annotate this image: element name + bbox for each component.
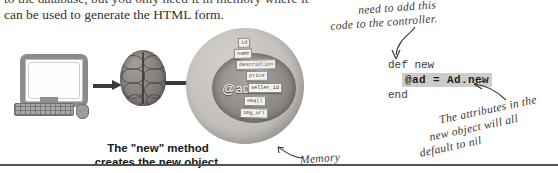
mouse-icon (76, 104, 89, 119)
attribute-tag: price (246, 71, 268, 81)
attribute-tag: seller_id (248, 83, 282, 93)
arrow-shaft (93, 84, 113, 88)
brain-fold (146, 94, 162, 106)
annotation-top: need to add this code to the controller. (322, 0, 532, 26)
body-line-2: can be used to generate the HTML form. (4, 7, 304, 23)
arrow-right-icon (93, 82, 121, 89)
annotation-bottom: The attributes in the new object will al… (424, 100, 558, 144)
attribute-tag: description (236, 59, 276, 70)
caption-line-2: creates the new object. (58, 156, 258, 170)
attribute-tag: email (244, 96, 266, 106)
attribute-tag: id (238, 37, 251, 48)
body-line-1: to the database, but you only need it in… (4, 0, 304, 7)
body-paragraph: to the database, but you only need it in… (4, 0, 304, 23)
keyboard-icon (14, 103, 74, 116)
caption-line-1: The "new" method (58, 142, 258, 156)
brain-fold (127, 94, 143, 106)
attribute-tag: img_url (240, 108, 268, 118)
desktop-computer-icon (12, 54, 90, 116)
attribute-tag: name (234, 48, 253, 59)
code-line-def: def new (388, 58, 492, 73)
attribute-tag-list: id name description price seller_id emai… (230, 38, 310, 134)
brain-icon (120, 50, 166, 106)
monitor-stand (40, 97, 58, 102)
page-divider (0, 164, 558, 166)
